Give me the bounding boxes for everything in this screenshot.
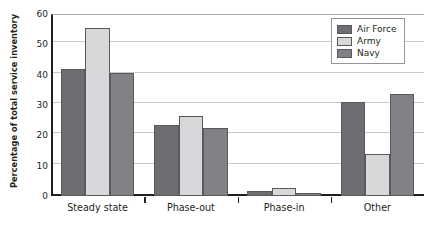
y-tick-label: 0 [18, 191, 48, 201]
legend-swatch-navy [337, 49, 352, 58]
bar-navy-steady-state [110, 73, 135, 196]
bar-air-force-phase-out [154, 125, 179, 196]
bar-army-phase-in [272, 188, 297, 196]
legend-item-army: Army [337, 35, 397, 47]
y-tick-label: 50 [18, 39, 48, 49]
x-category-label: Other [317, 202, 432, 213]
bar-army-steady-state [85, 28, 110, 196]
y-tick-label: 30 [18, 100, 48, 110]
legend-label-navy: Navy [357, 48, 380, 59]
chart-legend: Air Force Army Navy [331, 18, 405, 64]
bar-air-force-phase-in [247, 191, 272, 196]
y-tick-label: 10 [18, 161, 48, 171]
legend-label-air-force: Air Force [357, 24, 397, 35]
grouped-bar-chart: Percentage of total service inventory 01… [0, 0, 432, 225]
legend-swatch-army [337, 37, 352, 46]
bar-navy-phase-in [296, 193, 321, 196]
y-tick-label: 40 [18, 70, 48, 80]
bar-air-force-other [341, 102, 366, 196]
legend-label-army: Army [357, 36, 381, 47]
bar-navy-other [390, 94, 415, 196]
legend-item-air-force: Air Force [337, 23, 397, 35]
y-tick-label: 60 [18, 9, 48, 19]
bar-navy-phase-out [203, 128, 228, 196]
legend-item-navy: Navy [337, 47, 397, 59]
legend-swatch-air-force [337, 25, 352, 34]
bar-army-phase-out [179, 116, 204, 196]
bar-air-force-steady-state [61, 69, 86, 196]
bar-army-other [365, 154, 390, 196]
y-tick-label: 20 [18, 130, 48, 140]
